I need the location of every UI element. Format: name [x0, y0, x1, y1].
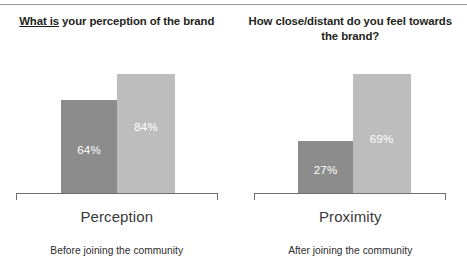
category-label-perception: Perception: [0, 208, 234, 225]
category-label-proximity: Proximity: [234, 208, 467, 225]
bar-value-label-perception-after: 84%: [117, 121, 175, 133]
chart-panel-proximity: How close/distant do you feel towards th…: [234, 5, 467, 271]
chart-panel-perception: What is your perception of the brand 64%…: [0, 5, 234, 271]
bar-proximity-before: 27%: [298, 141, 354, 193]
footer-label-perception: Before joining the community: [0, 245, 234, 256]
plot-area-perception: 64% 84%: [0, 5, 234, 271]
chart-panels: What is your perception of the brand 64%…: [0, 5, 467, 271]
bar-value-label-perception-before: 64%: [61, 144, 117, 156]
plot-area-proximity: 27% 69%: [234, 5, 467, 271]
x-axis-proximity: [254, 193, 446, 200]
x-axis-perception: [16, 193, 218, 200]
bar-perception-before: 64%: [61, 100, 117, 193]
bar-perception-after: 84%: [117, 74, 175, 193]
bar-value-label-proximity-before: 27%: [298, 164, 354, 176]
bar-proximity-after: 69%: [353, 74, 411, 193]
footer-label-proximity: After joining the community: [234, 245, 467, 256]
bar-value-label-proximity-after: 69%: [353, 133, 411, 145]
